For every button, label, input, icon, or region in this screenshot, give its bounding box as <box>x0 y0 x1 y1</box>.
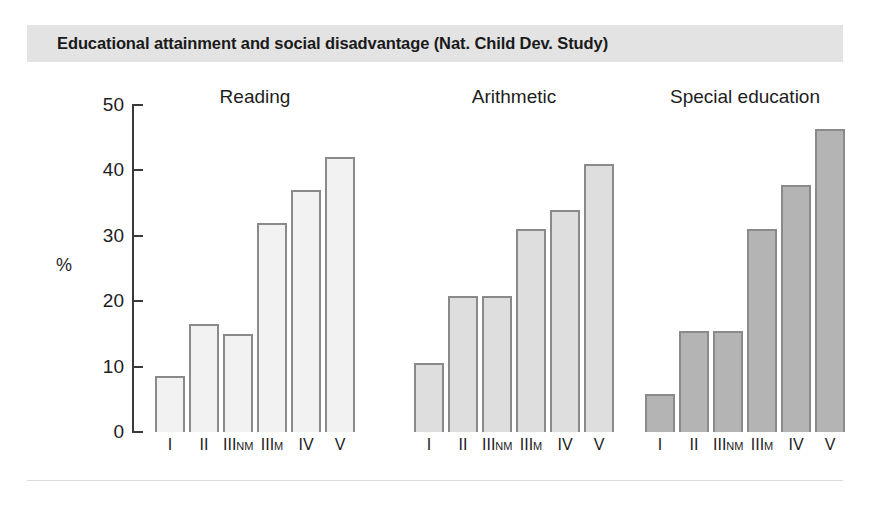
bar-reading-IIIM <box>257 223 287 432</box>
bar-arithmetic-I <box>414 363 444 432</box>
x-axis-label-arithmetic-I: I <box>414 437 444 453</box>
bar-arithmetic-IIINM <box>482 296 512 432</box>
plot-area: % 01020304050 ReadingArithmeticSpecial e… <box>0 0 870 505</box>
figure-container: Educational attainment and social disadv… <box>0 0 870 505</box>
bars-layer <box>0 105 870 432</box>
bar-arithmetic-V <box>584 164 614 432</box>
x-axis-label-special-education-II: II <box>679 437 709 453</box>
bar-arithmetic-IIIM <box>516 229 546 432</box>
x-axis-label-reading-IV: IV <box>291 437 321 453</box>
x-axis-label-special-education-IIINM: IIINM <box>713 437 743 453</box>
x-axis-label-arithmetic-IIINM: IIINM <box>482 437 512 453</box>
bar-reading-IIINM <box>223 334 253 432</box>
x-axis-label-reading-I: I <box>155 437 185 453</box>
x-axis-label-special-education-V: V <box>815 437 845 453</box>
bar-arithmetic-IV <box>550 210 580 432</box>
bar-special-education-I <box>645 394 675 432</box>
x-axis-label-special-education-I: I <box>645 437 675 453</box>
x-axis-label-reading-V: V <box>325 437 355 453</box>
x-axis-label-reading-IIIM: IIIM <box>257 437 287 453</box>
x-axis-label-arithmetic-IIIM: IIIM <box>516 437 546 453</box>
x-axis-label-arithmetic-V: V <box>584 437 614 453</box>
bar-arithmetic-II <box>448 296 478 432</box>
bar-reading-II <box>189 324 219 432</box>
bar-reading-IV <box>291 190 321 432</box>
bar-special-education-IIIM <box>747 229 777 432</box>
x-axis-label-special-education-IIIM: IIIM <box>747 437 777 453</box>
x-axis-label-arithmetic-II: II <box>448 437 478 453</box>
bar-reading-I <box>155 376 185 432</box>
bottom-divider <box>27 480 843 481</box>
bar-special-education-II <box>679 331 709 432</box>
x-axis-label-reading-IIINM: IIINM <box>223 437 253 453</box>
bar-special-education-IIINM <box>713 331 743 432</box>
bar-reading-V <box>325 157 355 432</box>
x-axis-label-arithmetic-IV: IV <box>550 437 580 453</box>
bar-special-education-IV <box>781 185 811 432</box>
bar-special-education-V <box>815 129 845 432</box>
x-axis-label-special-education-IV: IV <box>781 437 811 453</box>
x-axis-label-reading-II: II <box>189 437 219 453</box>
